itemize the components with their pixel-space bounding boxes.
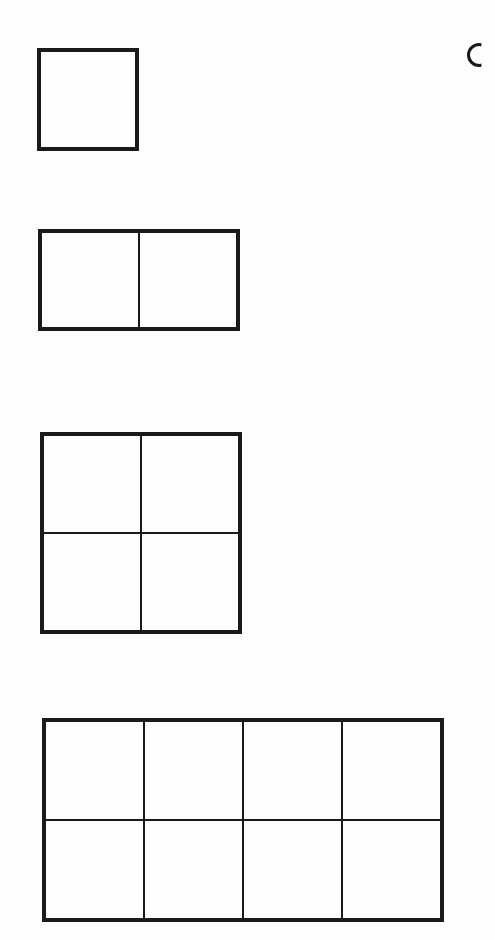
partial-circle-icon xyxy=(467,43,491,67)
grid-cell xyxy=(139,232,237,328)
diagram-canvas xyxy=(0,0,495,940)
grid-1x1 xyxy=(37,48,139,151)
grid-2x2 xyxy=(40,432,242,634)
grid-1x2 xyxy=(38,229,240,331)
grid-cell xyxy=(144,820,243,919)
grid-cell xyxy=(43,533,141,631)
grid-cell xyxy=(40,51,136,148)
grid-cell xyxy=(243,721,342,820)
grid-cell xyxy=(144,721,243,820)
grid-cell xyxy=(342,721,441,820)
grid-cell xyxy=(43,435,141,533)
grid-cell xyxy=(45,820,144,919)
grid-cell xyxy=(41,232,139,328)
grid-cell xyxy=(342,820,441,919)
grid-cell xyxy=(141,533,239,631)
grid-cell xyxy=(141,435,239,533)
grid-cell xyxy=(45,721,144,820)
grid-cell xyxy=(243,820,342,919)
grid-2x4 xyxy=(42,718,444,922)
